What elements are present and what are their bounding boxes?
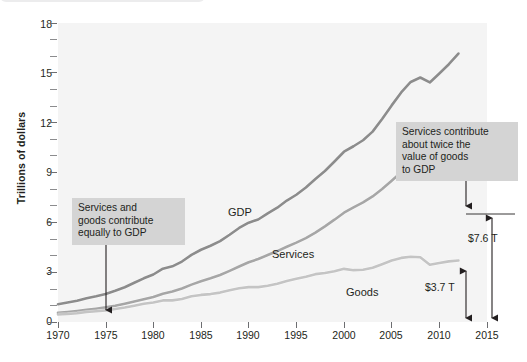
chart-figure: Trillions of dollars 18 15 12 9 6 3 0 19… [0,0,527,362]
series-label-goods: Goods [346,286,378,298]
series-label-gdp: GDP [228,206,252,218]
measure-label-services: $7.6 T [468,232,498,244]
callout-left-line1: Services and [78,202,178,215]
callout-right: Services contribute about twice the valu… [396,122,518,181]
series-label-services: Services [272,248,314,260]
callout-right-line3: value of goods [402,151,511,164]
callout-left: Services and goods contribute equally to… [72,198,185,245]
callout-right-line2: about twice the [402,139,511,152]
callout-right-line1: Services contribute [402,126,511,139]
callout-left-line3: equally to GDP [78,227,178,240]
measure-label-goods: $3.7 T [425,281,455,293]
callout-right-line4: to GDP [402,164,511,177]
callout-left-line2: goods contribute [78,215,178,228]
